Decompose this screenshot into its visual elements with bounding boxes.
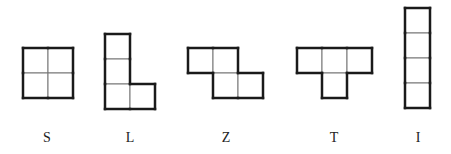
piece-z [188, 48, 263, 98]
piece-i [405, 8, 430, 108]
label-l: L [126, 131, 135, 145]
label-z: Z [222, 131, 231, 145]
label-s: S [43, 131, 51, 145]
piece-s [23, 48, 73, 98]
piece-t [297, 48, 372, 98]
piece-l [105, 34, 155, 109]
label-i: I [416, 131, 421, 145]
label-t: T [330, 131, 339, 145]
